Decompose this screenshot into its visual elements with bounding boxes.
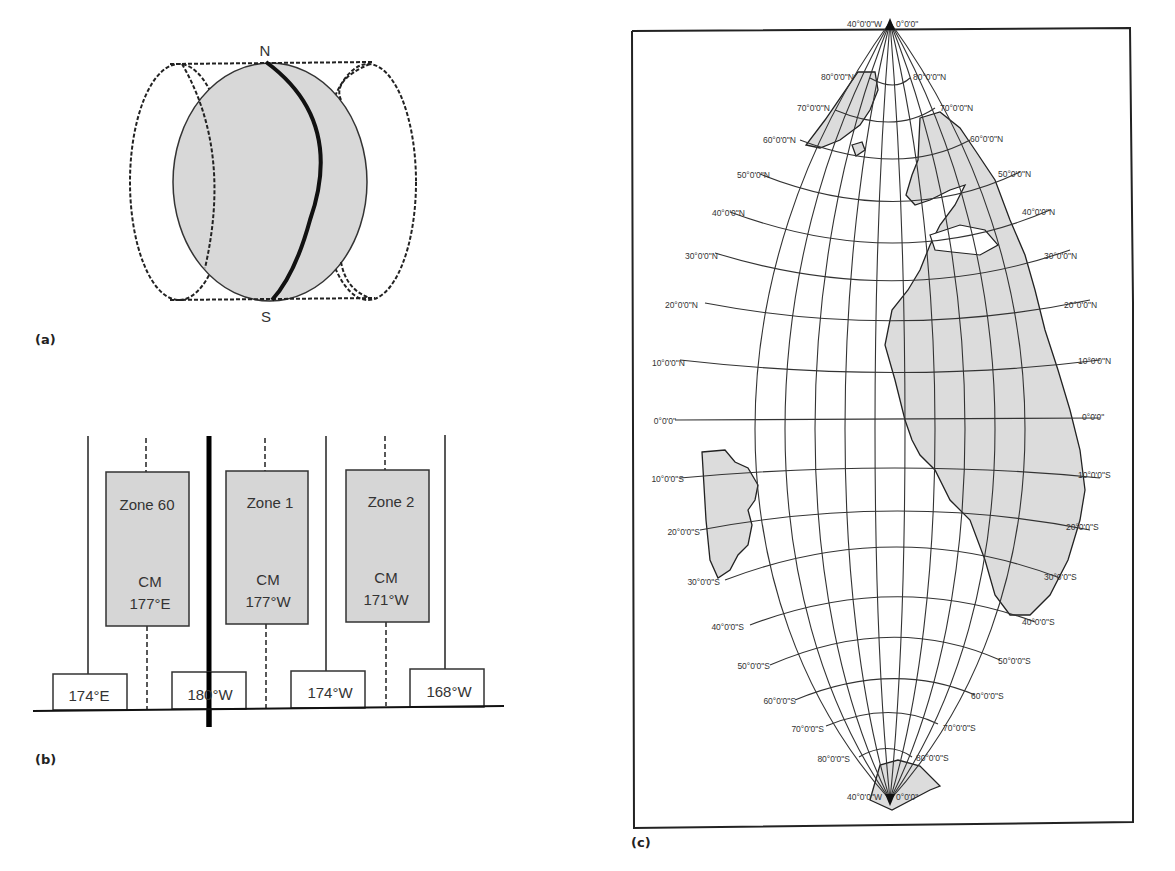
- boundary-label: 174°E: [68, 687, 109, 704]
- pole-north-left-label: 40°0'0"W: [847, 19, 882, 29]
- pole-north-right-label: 0°0'0": [896, 19, 918, 29]
- svg-text:10°0'0"S: 10°0'0"S: [1078, 470, 1111, 480]
- zone-name: Zone 1: [247, 494, 294, 511]
- svg-text:0°0'0": 0°0'0": [654, 416, 676, 426]
- zone-cm-label: CM: [374, 569, 397, 586]
- north-pole-marker-icon: [885, 18, 895, 30]
- svg-text:80°0'0"N: 80°0'0"N: [821, 72, 854, 82]
- svg-text:70°0'0"S: 70°0'0"S: [943, 723, 976, 733]
- svg-text:80°0'0"S: 80°0'0"S: [916, 753, 949, 763]
- boundary-label: 168°W: [426, 683, 472, 700]
- zone-cm-label: CM: [256, 571, 279, 588]
- pole-south-left-label: 40°0'0"W: [847, 792, 882, 802]
- svg-text:70°0'0"N: 70°0'0"N: [797, 103, 830, 113]
- zone-name: Zone 2: [368, 493, 415, 510]
- svg-text:80°0'0"N: 80°0'0"N: [913, 72, 946, 82]
- svg-text:40°0'0"S: 40°0'0"S: [1022, 617, 1055, 627]
- svg-text:60°0'0"N: 60°0'0"N: [970, 134, 1003, 144]
- svg-text:30°0'0"S: 30°0'0"S: [687, 577, 720, 587]
- svg-text:70°0'0"S: 70°0'0"S: [791, 724, 824, 734]
- svg-text:10°0'0"N: 10°0'0"N: [652, 358, 685, 368]
- svg-text:20°0'0"S: 20°0'0"S: [667, 527, 700, 537]
- svg-text:0°0'0": 0°0'0": [1082, 412, 1104, 422]
- svg-text:40°0'0"N: 40°0'0"N: [1022, 207, 1055, 217]
- svg-text:30°0'0"S: 30°0'0"S: [1044, 572, 1077, 582]
- utm-zones-diagram: Zone 60 CM 177°E Zone 1 CM 177°W Zone 2 …: [0, 0, 620, 760]
- svg-text:40°0'0"N: 40°0'0"N: [712, 208, 745, 218]
- svg-text:50°0'0"N: 50°0'0"N: [998, 169, 1031, 179]
- boundary-label: 174°W: [307, 684, 353, 701]
- zone-cm-value: 171°W: [363, 591, 409, 608]
- transverse-projection-map: 40°0'0"W 0°0'0" 80°0'0"N 70°0'0"N 60°0'0…: [630, 0, 1175, 871]
- zone-name: Zone 60: [119, 496, 174, 513]
- zone-cm-value: 177°W: [245, 593, 291, 610]
- svg-text:30°0'0"N: 30°0'0"N: [685, 251, 718, 261]
- svg-text:50°0'0"S: 50°0'0"S: [737, 661, 770, 671]
- svg-text:20°0'0"N: 20°0'0"N: [665, 300, 698, 310]
- panel-label-c: (c): [631, 835, 651, 850]
- svg-text:10°0'0"S: 10°0'0"S: [651, 474, 684, 484]
- svg-text:50°0'0"S: 50°0'0"S: [998, 656, 1031, 666]
- panel-label-b: (b): [35, 752, 56, 767]
- pole-south-right-label: 0°0'0": [896, 792, 918, 802]
- svg-text:20°0'0"N: 20°0'0"N: [1064, 300, 1097, 310]
- svg-text:40°0'0"S: 40°0'0"S: [711, 622, 744, 632]
- svg-text:70°0'0"N: 70°0'0"N: [940, 103, 973, 113]
- svg-text:10°0'0"N: 10°0'0"N: [1078, 356, 1111, 366]
- zone-cm-value: 177°E: [129, 595, 170, 612]
- europe-africa: [885, 112, 1085, 615]
- svg-text:60°0'0"S: 60°0'0"S: [971, 691, 1004, 701]
- zone-cm-label: CM: [138, 573, 161, 590]
- boundary-label: 180°W: [187, 686, 233, 703]
- svg-text:60°0'0"S: 60°0'0"S: [763, 696, 796, 706]
- south-america: [702, 450, 758, 578]
- svg-text:30°0'0"N: 30°0'0"N: [1044, 251, 1077, 261]
- iceland: [852, 142, 865, 156]
- svg-text:80°0'0"S: 80°0'0"S: [817, 754, 850, 764]
- svg-text:20°0'0"S: 20°0'0"S: [1066, 522, 1099, 532]
- land-masses: [702, 72, 1085, 810]
- svg-text:50°0'0"N: 50°0'0"N: [737, 170, 770, 180]
- svg-text:60°0'0"N: 60°0'0"N: [763, 135, 796, 145]
